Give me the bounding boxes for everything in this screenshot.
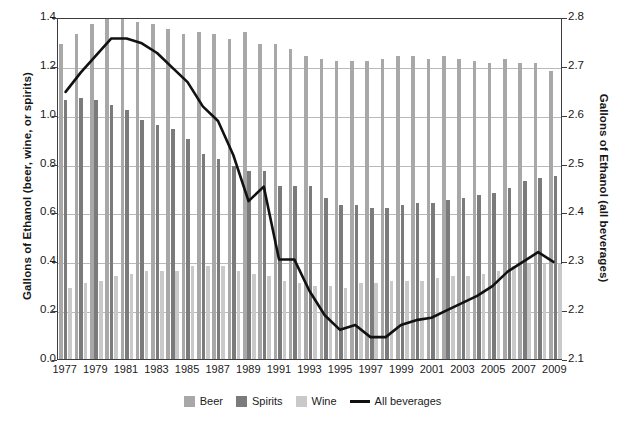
y-tick-label-left: 0.8 xyxy=(16,157,56,169)
y-tick-label-right: 2.5 xyxy=(568,157,608,169)
legend-swatch-square-icon xyxy=(236,396,247,407)
y-axis-title-right: Gallons of Ethanol (all beverages) xyxy=(598,68,610,308)
legend-label: All beverages xyxy=(375,395,442,407)
x-tick-label-2009: 2009 xyxy=(531,363,577,375)
legend-label: Wine xyxy=(312,395,337,407)
y-tick-label-right: 2.6 xyxy=(568,108,608,120)
y-tick-mark-right xyxy=(562,360,567,361)
legend-item-wine[interactable]: Wine xyxy=(296,395,337,407)
legend-swatch-line-icon xyxy=(350,400,370,403)
y-tick-mark-right xyxy=(562,311,567,312)
legend-swatch-square-icon xyxy=(184,396,195,407)
y-tick-mark-right xyxy=(562,213,567,214)
y-tick-label-right: 2.4 xyxy=(568,205,608,217)
y-tick-label-left: 0.2 xyxy=(16,303,56,315)
y-tick-mark-right xyxy=(562,262,567,263)
y-tick-label-right: 2.7 xyxy=(568,59,608,71)
legend-swatch-square-icon xyxy=(296,396,307,407)
chart-legend: BeerSpiritsWineAll beverages xyxy=(0,390,625,412)
y-tick-label-right: 2.8 xyxy=(568,10,608,22)
y-tick-label-left: 1.2 xyxy=(16,59,56,71)
y-tick-label-left: 0.4 xyxy=(16,254,56,266)
line-all-beverages xyxy=(66,38,554,337)
legend-label: Spirits xyxy=(252,395,283,407)
all-beverages-line xyxy=(58,19,561,359)
y-tick-mark-right xyxy=(562,18,567,19)
legend-item-all-beverages[interactable]: All beverages xyxy=(350,395,442,407)
y-tick-label-left: 1.4 xyxy=(16,10,56,22)
y-axis-title-left: Gallons of Ethanol (beer, wine, or spiri… xyxy=(21,66,33,306)
legend-label: Beer xyxy=(200,395,223,407)
y-tick-mark-right xyxy=(562,67,567,68)
legend-item-spirits[interactable]: Spirits xyxy=(236,395,283,407)
y-tick-mark-right xyxy=(562,165,567,166)
line-series-layer xyxy=(58,19,561,359)
plot-area xyxy=(57,18,562,360)
y-tick-label-left: 1.0 xyxy=(16,108,56,120)
legend-item-beer[interactable]: Beer xyxy=(184,395,223,407)
y-tick-mark-left xyxy=(52,360,57,361)
y-tick-label-left: 0.6 xyxy=(16,205,56,217)
y-tick-label-right: 2.2 xyxy=(568,303,608,315)
y-tick-label-right: 2.3 xyxy=(568,254,608,266)
chart-root: Gallons of Ethanol (beer, wine, or spiri… xyxy=(0,0,625,425)
y-tick-mark-right xyxy=(562,116,567,117)
